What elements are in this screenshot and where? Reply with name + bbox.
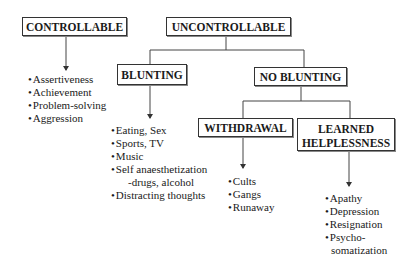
list-item: Eating, Sex xyxy=(111,124,207,137)
node-label-line1: LEARNED xyxy=(298,122,394,136)
node-label-line2: HELPLESSNESS xyxy=(298,136,394,150)
node-label: WITHDRAWAL xyxy=(204,122,286,134)
node-label: UNCONTROLLABLE xyxy=(172,21,286,33)
list-item: Self anaesthetization xyxy=(111,163,207,176)
node-label: BLUNTING xyxy=(121,69,182,81)
list-learned-helplessness: Apathy Depression Resignation Psycho- so… xyxy=(325,192,387,257)
node-learned-helplessness: LEARNED HELPLESSNESS xyxy=(297,118,395,151)
node-withdrawal: WITHDRAWAL xyxy=(198,118,293,137)
list-item: Cults xyxy=(228,175,274,188)
list-item: Achievement xyxy=(28,86,106,99)
list-item: Apathy xyxy=(325,192,387,205)
list-item: Runaway xyxy=(228,201,274,214)
node-no-blunting: NO BLUNTING xyxy=(254,67,347,86)
list-item: Resignation xyxy=(325,218,387,231)
list-item-continuation: -drugs, alcohol xyxy=(111,176,207,189)
node-label: NO BLUNTING xyxy=(260,71,341,83)
node-label: CONTROLLABLE xyxy=(26,21,123,33)
list-withdrawal: Cults Gangs Runaway xyxy=(228,175,274,214)
list-item: Depression xyxy=(325,205,387,218)
list-item: Sports, TV xyxy=(111,137,207,150)
list-blunting: Eating, Sex Sports, TV Music Self anaest… xyxy=(111,124,207,202)
arrowhead-icon xyxy=(346,182,352,187)
list-item: Music xyxy=(111,150,207,163)
list-item: Psycho- xyxy=(325,231,387,244)
list-controllable: Assertiveness Achievement Problem-solvin… xyxy=(28,73,106,125)
arrowhead-icon xyxy=(147,114,153,119)
list-item: Aggression xyxy=(28,112,106,125)
list-item: Problem-solving xyxy=(28,99,106,112)
arrowhead-icon xyxy=(63,66,69,71)
list-item: Distracting thoughts xyxy=(111,189,207,202)
list-item: Assertiveness xyxy=(28,73,106,86)
list-item-continuation: somatization xyxy=(325,244,387,257)
node-blunting: BLUNTING xyxy=(117,64,187,85)
arrowhead-icon xyxy=(240,164,246,169)
list-item: Gangs xyxy=(228,188,274,201)
node-controllable: CONTROLLABLE xyxy=(22,17,127,36)
node-uncontrollable: UNCONTROLLABLE xyxy=(166,17,291,36)
